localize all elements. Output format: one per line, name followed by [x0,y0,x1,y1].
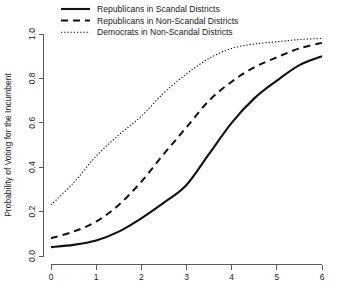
line-chart: 0.00.20.40.60.81.0 0123456 Probability o… [0,0,337,297]
x-tick-label: 6 [320,272,325,282]
y-axis: 0.00.20.40.60.81.0 [27,28,43,262]
y-axis-ticks: 0.00.20.40.60.81.0 [27,28,43,262]
x-tick-label: 5 [274,272,279,282]
y-tick-label: 0.4 [27,161,37,173]
chart-container: 0.00.20.40.60.81.0 0123456 Probability o… [0,0,337,297]
y-tick-label: 0.8 [27,72,37,84]
y-axis-title: Probability of Voting for the Incumbent [3,73,13,217]
y-tick-label: 0.6 [27,117,37,129]
x-tick-label: 4 [229,272,234,282]
x-tick-label: 3 [184,272,189,282]
chart-series-line-1 [51,43,322,238]
legend-label: Democrats in Non-Scandal Districts [97,27,233,37]
chart-legend: Republicans in Scandal DistrictsRepublic… [61,4,238,37]
chart-series-group [51,38,322,247]
y-tick-label: 0.0 [27,250,37,262]
x-tick-label: 0 [49,272,54,282]
x-tick-label: 2 [139,272,144,282]
x-tick-label: 1 [94,272,99,282]
legend-label: Republicans in Scandal Districts [97,4,220,14]
y-tick-label: 1.0 [27,28,37,40]
x-axis-ticks: 0123456 [49,265,325,283]
y-tick-label: 0.2 [27,205,37,217]
x-axis: 0123456 [49,265,325,283]
legend-label: Republicans in Non-Scandal Districts [97,16,238,26]
chart-series-line-0 [51,56,322,247]
chart-series-line-2 [51,38,322,205]
